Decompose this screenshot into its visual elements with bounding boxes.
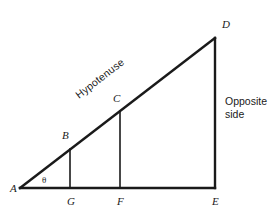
vertex-label-a: A [9,182,17,194]
vertex-label-e: E [211,195,219,207]
vertex-label-g: G [67,195,75,207]
vertex-label-d: D [221,18,230,30]
vertex-label-b: B [62,129,69,141]
opposite-side-line-1: Opposite [225,95,267,107]
vertex-label-c: C [113,92,121,104]
trigonometry-figure: A B C D E F G θ Hypotenuse Opposite side [0,0,272,220]
opposite-side-line-2: side [225,108,244,120]
triangle-diagram: A B C D E F G θ Hypotenuse Opposite side [0,0,272,220]
opposite-side-annotation: Opposite side [225,95,270,120]
angle-theta-label: θ [42,175,46,185]
vertex-label-f: F [116,195,124,207]
